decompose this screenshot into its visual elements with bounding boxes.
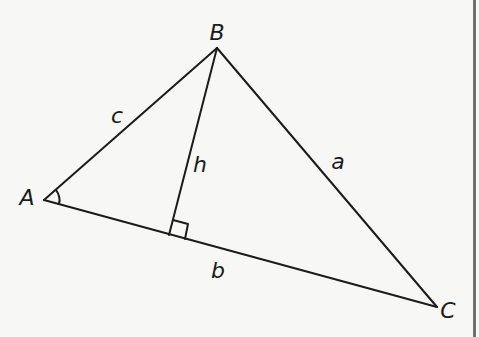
frame-border <box>473 0 476 337</box>
angle-arc-at-A <box>56 190 60 204</box>
altitude-label-h: h <box>193 154 207 176</box>
side-label-b: b <box>211 260 225 282</box>
side-label-a: a <box>331 151 344 173</box>
side-b <box>44 200 437 307</box>
vertex-label-a-point: A <box>19 187 34 209</box>
side-label-c: c <box>111 105 123 127</box>
vertex-label-c-point: C <box>440 300 455 322</box>
side-a <box>217 48 437 307</box>
triangle-figure <box>0 0 479 337</box>
triangle-diagram: A B C a b c h <box>0 0 479 337</box>
vertex-label-b-point: B <box>209 22 224 44</box>
altitude-h <box>169 48 217 235</box>
side-c <box>44 48 217 200</box>
